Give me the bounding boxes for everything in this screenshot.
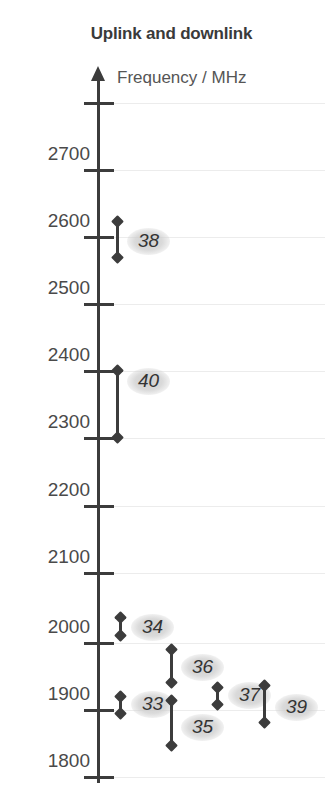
axis-tick [84, 169, 114, 172]
axis-tick [84, 236, 114, 239]
band-range-bar[interactable] [263, 685, 266, 723]
band-bottom-cap-icon [111, 431, 124, 444]
y-axis-tick-label: 2700 [4, 143, 90, 165]
band-label-38: 38 [127, 228, 170, 255]
axis-tick [84, 572, 114, 575]
y-axis-tick-label: 1800 [4, 750, 90, 772]
band-range-bar[interactable] [170, 700, 173, 746]
gridline [112, 777, 325, 778]
axis-tick [84, 370, 114, 373]
band-top-cap-icon [114, 690, 127, 703]
chart-root: Uplink and downlink Frequency / MHz 2700… [0, 0, 325, 812]
y-axis-tick-label: 2500 [4, 277, 90, 299]
axis-tick [84, 437, 114, 440]
band-top-cap-icon [165, 643, 178, 656]
gridline [112, 170, 325, 171]
gridline [112, 573, 325, 574]
band-range-bar[interactable] [170, 649, 173, 683]
y-axis-tick-label: 2100 [4, 546, 90, 568]
y-axis-tick-label: 2300 [4, 411, 90, 433]
band-label-34: 34 [131, 614, 174, 641]
gridline [112, 304, 325, 305]
axis-tick [84, 303, 114, 306]
band-bottom-cap-icon [258, 716, 271, 729]
band-range-bar[interactable] [116, 221, 119, 258]
gridline [112, 438, 325, 439]
y-axis-tick-label: 2200 [4, 479, 90, 501]
gridline [112, 506, 325, 507]
band-label-36: 36 [181, 654, 224, 681]
band-bottom-cap-icon [165, 676, 178, 689]
y-axis-tick-label: 2000 [4, 616, 90, 638]
band-range-bar[interactable] [116, 370, 119, 438]
band-bottom-cap-icon [111, 251, 124, 264]
axis-tick [84, 102, 114, 105]
band-label-33: 33 [131, 691, 174, 718]
band-top-cap-icon [211, 681, 224, 694]
band-label-40: 40 [127, 368, 170, 395]
band-bottom-cap-icon [114, 629, 127, 642]
band-range-bar[interactable] [119, 696, 122, 714]
band-label-35: 35 [181, 714, 224, 741]
band-range-bar[interactable] [216, 687, 219, 705]
axis-tick [84, 776, 114, 779]
y-axis-line [97, 78, 100, 783]
band-top-cap-icon [111, 364, 124, 377]
axis-tick [84, 709, 114, 712]
gridline [112, 643, 325, 644]
plot-area: 2700260025002400230022002100200019001800… [0, 0, 325, 812]
band-range-bar[interactable] [119, 617, 122, 636]
band-label-39: 39 [275, 694, 318, 721]
y-axis-tick-label: 2600 [4, 210, 90, 232]
axis-tick [84, 505, 114, 508]
axis-tick [84, 642, 114, 645]
gridline [112, 103, 325, 104]
band-bottom-cap-icon [211, 698, 224, 711]
band-top-cap-icon [114, 611, 127, 624]
band-bottom-cap-icon [165, 739, 178, 752]
band-top-cap-icon [111, 215, 124, 228]
y-axis-tick-label: 1900 [4, 683, 90, 705]
y-axis-tick-label: 2400 [4, 344, 90, 366]
